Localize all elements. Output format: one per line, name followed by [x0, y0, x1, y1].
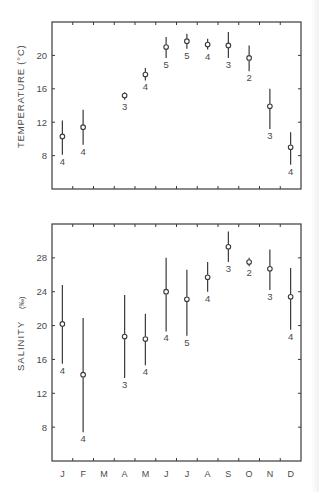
- chart-canvas: 8121620 44345543234 TEMPERATURE (°C) 812…: [0, 0, 319, 492]
- month-label: O: [246, 469, 253, 479]
- y-tick-label: 16: [36, 83, 47, 94]
- sample-size-label: 3: [226, 59, 231, 70]
- sample-size-label: 4: [60, 156, 65, 167]
- salinity-plot-frame: [52, 224, 301, 461]
- sample-size-label: 5: [163, 59, 168, 70]
- y-tick-label: 20: [36, 50, 47, 61]
- temperature-data-point: 4: [205, 39, 210, 62]
- salinity-label-text: SALINITY: [15, 321, 26, 371]
- mean-marker-icon: [247, 260, 252, 265]
- sample-size-label: 2: [246, 72, 251, 83]
- sample-size-label: 4: [288, 331, 293, 342]
- salinity-data-point: 4: [80, 318, 85, 444]
- mean-marker-icon: [268, 104, 273, 109]
- salinity-data-point: 3: [122, 295, 127, 390]
- sample-size-label: 4: [143, 81, 148, 92]
- mean-marker-icon: [205, 275, 210, 280]
- y-tick-label: 16: [36, 354, 47, 365]
- mean-marker-icon: [288, 145, 293, 150]
- salinity-data-point: 3: [226, 232, 231, 274]
- temperature-data-point: 4: [80, 110, 85, 157]
- figure: 8121620 44345543234 TEMPERATURE (°C) 812…: [0, 0, 319, 492]
- y-tick-label: 8: [42, 422, 47, 433]
- month-axis-labels: JFMAMJJASOND: [60, 469, 294, 479]
- mean-marker-icon: [164, 289, 169, 294]
- month-label: A: [122, 469, 128, 479]
- salinity-label-unit: (‰): [17, 296, 26, 309]
- sample-size-label: 4: [205, 51, 210, 62]
- mean-marker-icon: [185, 39, 190, 44]
- mean-marker-icon: [122, 93, 127, 98]
- mean-marker-icon: [226, 43, 231, 48]
- temperature-data-point: 5: [163, 37, 168, 70]
- sample-size-label: 3: [267, 291, 272, 302]
- mean-marker-icon: [60, 322, 65, 327]
- mean-marker-icon: [226, 245, 231, 250]
- temperature-data-point: 3: [267, 89, 272, 141]
- y-tick-label: 24: [36, 286, 47, 297]
- temperature-y-axis-label: TEMPERATURE (°C): [15, 44, 26, 148]
- salinity-data-point: 4: [205, 262, 210, 304]
- mean-marker-icon: [81, 372, 86, 377]
- temperature-data-point: 4: [60, 121, 65, 167]
- salinity-data-point: 4: [143, 314, 148, 378]
- mean-marker-icon: [268, 267, 273, 272]
- salinity-y-axis-label: SALINITY (‰): [15, 296, 26, 371]
- temperature-panel: 8121620 44345543234 TEMPERATURE (°C): [15, 22, 301, 189]
- page-edge-shadow: [311, 0, 319, 492]
- sample-size-label: 5: [184, 337, 189, 348]
- mean-marker-icon: [60, 134, 65, 139]
- salinity-data-point: 4: [60, 285, 65, 376]
- y-tick-label: 12: [36, 117, 47, 128]
- temperature-plot-frame: [52, 22, 301, 189]
- month-label: M: [100, 469, 108, 479]
- temperature-data-point: 4: [288, 132, 293, 177]
- temperature-data-point: 3: [122, 92, 127, 112]
- temperature-data-point: 2: [246, 45, 251, 83]
- mean-marker-icon: [164, 45, 169, 50]
- salinity-series: 44344543234: [60, 232, 294, 445]
- mean-marker-icon: [205, 42, 210, 47]
- salinity-panel: 81216202428 44344543234 SALINITY (‰) JFM…: [15, 224, 301, 479]
- temperature-series: 44345543234: [60, 32, 294, 177]
- month-label: M: [142, 469, 150, 479]
- salinity-data-point: 3: [267, 249, 272, 302]
- mean-marker-icon: [143, 337, 148, 342]
- salinity-data-point: 2: [246, 258, 251, 278]
- temperature-data-point: 5: [184, 34, 189, 61]
- y-tick-label: 20: [36, 320, 47, 331]
- mean-marker-icon: [122, 334, 127, 339]
- sample-size-label: 4: [80, 146, 85, 157]
- month-label: F: [80, 469, 86, 479]
- salinity-data-point: 5: [184, 270, 189, 348]
- sample-size-label: 3: [122, 379, 127, 390]
- month-label: J: [185, 469, 190, 479]
- sample-size-label: 4: [163, 332, 168, 343]
- y-tick-label: 8: [42, 150, 47, 161]
- salinity-data-point: 4: [288, 268, 293, 342]
- sample-size-label: 4: [80, 433, 85, 444]
- mean-marker-icon: [143, 72, 148, 77]
- salinity-data-point: 4: [163, 258, 168, 344]
- month-label: J: [164, 469, 169, 479]
- mean-marker-icon: [247, 56, 252, 61]
- sample-size-label: 3: [226, 263, 231, 274]
- month-label: A: [205, 469, 211, 479]
- sample-size-label: 3: [267, 130, 272, 141]
- mean-marker-icon: [288, 294, 293, 299]
- mean-marker-icon: [185, 297, 190, 302]
- month-label: J: [60, 469, 65, 479]
- mean-marker-icon: [81, 125, 86, 130]
- sample-size-label: 2: [246, 267, 251, 278]
- sample-size-label: 4: [143, 366, 148, 377]
- temperature-data-point: 3: [226, 32, 231, 70]
- sample-size-label: 4: [288, 166, 293, 177]
- sample-size-label: 4: [205, 293, 210, 304]
- month-label: D: [287, 469, 294, 479]
- sample-size-label: 5: [184, 50, 189, 61]
- month-label: N: [267, 469, 274, 479]
- sample-size-label: 4: [60, 365, 65, 376]
- temperature-data-point: 4: [143, 68, 148, 93]
- y-tick-label: 28: [36, 252, 47, 263]
- month-label: S: [225, 469, 231, 479]
